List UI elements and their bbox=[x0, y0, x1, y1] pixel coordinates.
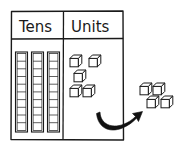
column-header-tens: Tens bbox=[18, 18, 52, 36]
unit-cube bbox=[153, 83, 165, 95]
diagram-canvas: Tens Units bbox=[0, 0, 188, 151]
ten-rod bbox=[16, 52, 28, 132]
ten-rod bbox=[48, 52, 60, 132]
unit-cube bbox=[70, 85, 82, 97]
unit-cube bbox=[147, 96, 159, 108]
ten-rod bbox=[32, 52, 44, 132]
tens-column-blocks bbox=[16, 52, 60, 132]
column-header-units: Units bbox=[71, 18, 110, 36]
unit-cube bbox=[140, 83, 152, 95]
table-column-divider bbox=[63, 11, 64, 139]
outside-unit-cubes bbox=[140, 83, 173, 108]
unit-cube bbox=[161, 96, 173, 108]
unit-cube bbox=[83, 85, 95, 97]
unit-cube bbox=[74, 70, 86, 82]
unit-cube bbox=[70, 55, 82, 67]
units-column-blocks bbox=[70, 55, 101, 97]
table-header-rule bbox=[12, 39, 124, 40]
curved-arrow-icon bbox=[97, 112, 143, 131]
unit-cube bbox=[89, 55, 101, 67]
place-value-chart-svg: Tens Units bbox=[0, 0, 188, 151]
